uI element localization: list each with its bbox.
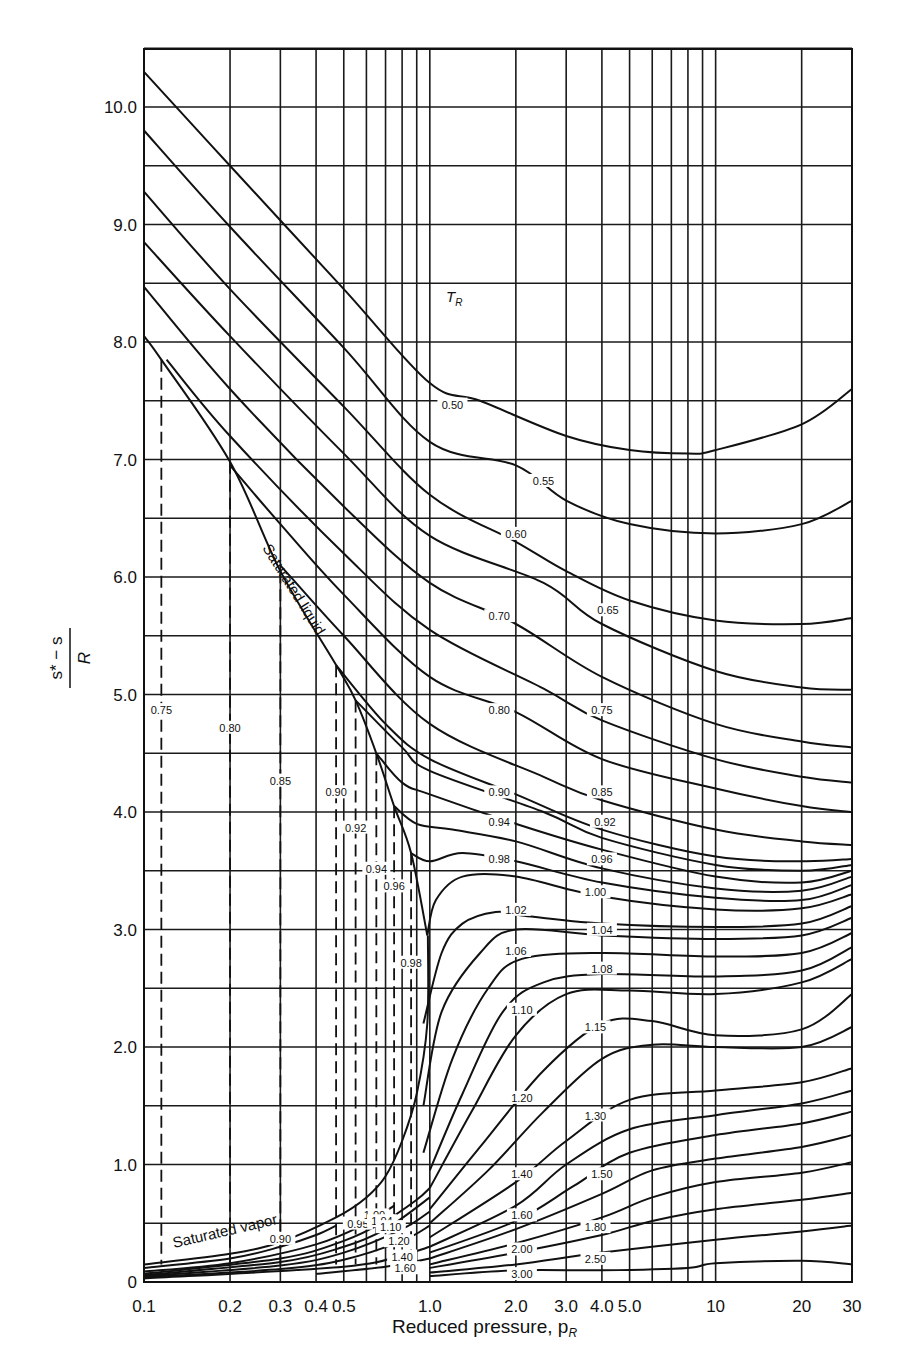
x-tick-label: 3.0 xyxy=(554,1297,578,1316)
curve-label-2.50: 2.50 xyxy=(585,1253,606,1265)
tr-curve-1.06 xyxy=(423,933,852,1153)
x-tick-label: 0.3 xyxy=(269,1297,293,1316)
curve-label-1.10: 1.10 xyxy=(380,1221,401,1233)
tr-curve-1.02 xyxy=(423,906,852,1024)
x-axis-label-text: Reduced pressure, p xyxy=(392,1316,568,1337)
x-tick-label: 10 xyxy=(706,1297,725,1316)
x-tick-label: 30 xyxy=(843,1297,862,1316)
saturated-vapor-label: Saturated vapor xyxy=(171,1210,279,1251)
curve-label-0.85: 0.85 xyxy=(591,786,612,798)
curve-label-0.70: 0.70 xyxy=(489,610,510,622)
tr-curve-0.55 xyxy=(144,131,852,534)
dashed-label-0.90: 0.90 xyxy=(325,786,346,798)
tr-curve-0.75 xyxy=(167,360,852,783)
dashed-label-0.80: 0.80 xyxy=(219,722,240,734)
x-tick-label: 0.2 xyxy=(218,1297,242,1316)
curve-label-1.40: 1.40 xyxy=(511,1168,532,1180)
grid-layer xyxy=(144,48,852,1282)
curve-label-1.60: 1.60 xyxy=(394,1262,415,1274)
x-tick-label: 0.5 xyxy=(332,1297,356,1316)
x-tick-label: 20 xyxy=(792,1297,811,1316)
curve-label-0.65: 0.65 xyxy=(597,604,618,616)
tr-curve-1.50 xyxy=(430,1112,852,1253)
y-tick-label: 1.0 xyxy=(113,1156,137,1175)
x-tick-label: 1.0 xyxy=(418,1297,442,1316)
curve-label-1.00: 1.00 xyxy=(585,886,606,898)
dashed-label-0.94: 0.94 xyxy=(366,863,387,875)
tr-curve-1.30 xyxy=(430,1068,852,1237)
curve-label-1.20: 1.20 xyxy=(511,1092,532,1104)
legend-title-tr: TR xyxy=(446,288,462,308)
dashed-label-0.92: 0.92 xyxy=(345,822,366,834)
curve-label-1.20: 1.20 xyxy=(388,1235,409,1247)
curve-label-1.15: 1.15 xyxy=(585,1021,606,1033)
dashed-label-0.75: 0.75 xyxy=(151,704,172,716)
x-tick-label: 4.0 xyxy=(590,1297,614,1316)
tick-labels: 0.10.20.30.40.51.02.03.04.05.010203001.0… xyxy=(104,98,862,1316)
y-tick-label: 4.0 xyxy=(113,803,137,822)
curve-label-1.40: 1.40 xyxy=(391,1251,412,1263)
legend-title-sub: R xyxy=(455,297,462,308)
y-tick-label: 9.0 xyxy=(113,216,137,235)
curve-label-2.00: 2.00 xyxy=(511,1243,532,1255)
y-tick-label: 5.0 xyxy=(113,686,137,705)
x-tick-label: 5.0 xyxy=(618,1297,642,1316)
x-tick-label: 0.4 xyxy=(304,1297,328,1316)
curve-label-1.04: 1.04 xyxy=(591,924,612,936)
x-tick-label: 2.0 xyxy=(504,1297,528,1316)
curve-label-0.90: 0.90 xyxy=(489,786,510,798)
entropy-departure-chart: 0.500.550.600.650.700.750.800.850.900.92… xyxy=(0,0,901,1372)
curve-label-1.80: 1.80 xyxy=(585,1221,606,1233)
curve-label-1.60: 1.60 xyxy=(511,1209,532,1221)
saturated-liquid-label: Saturated liquid xyxy=(259,541,329,638)
tr-curve-0.50 xyxy=(144,72,852,454)
curve-label-3.00: 3.00 xyxy=(511,1268,532,1280)
curve-label-1.02: 1.02 xyxy=(505,904,526,916)
curve-label-0.60: 0.60 xyxy=(505,528,526,540)
y-tick-label: 2.0 xyxy=(113,1038,137,1057)
dashed-label-0.85: 0.85 xyxy=(270,775,291,787)
dashed-label-0.98: 0.98 xyxy=(400,957,421,969)
curve-label-0.55: 0.55 xyxy=(533,475,554,487)
curve-label-1.30: 1.30 xyxy=(585,1110,606,1122)
curve-label-1.10: 1.10 xyxy=(511,1004,532,1016)
y-tick-label: 6.0 xyxy=(113,568,137,587)
tr-curve-0.96 xyxy=(394,806,852,892)
tr-curve-1.10 xyxy=(430,959,852,1188)
tr-curve-1.04 xyxy=(423,918,852,1106)
y-tick-label: 3.0 xyxy=(113,921,137,940)
tr-curve-3.00 xyxy=(430,1261,852,1276)
x-tick-label: 0.1 xyxy=(132,1297,156,1316)
dashed-label-0.96: 0.96 xyxy=(383,880,404,892)
curve-label-0.96: 0.96 xyxy=(591,853,612,865)
curve-label-0.98: 0.98 xyxy=(489,853,510,865)
tr-curves xyxy=(144,72,852,1279)
x-axis-label: Reduced pressure, pR xyxy=(392,1316,577,1340)
curve-label-0.94: 0.94 xyxy=(489,816,510,828)
curve-label-0.50: 0.50 xyxy=(442,399,463,411)
curve-label-0.92: 0.92 xyxy=(594,816,615,828)
tr-curve-1.80 xyxy=(430,1162,852,1264)
y-tick-label: 7.0 xyxy=(113,451,137,470)
curve-label-0.75: 0.75 xyxy=(591,704,612,716)
curve-label-1.08: 1.08 xyxy=(591,963,612,975)
y-axis-label-numerator: s* − s xyxy=(47,637,66,680)
curve-label-1.06: 1.06 xyxy=(505,945,526,957)
y-tick-label: 8.0 xyxy=(113,333,137,352)
curve-label-1.50: 1.50 xyxy=(591,1168,612,1180)
y-tick-label: 0 xyxy=(128,1273,137,1292)
x-axis-label-sub: R xyxy=(568,1326,577,1340)
y-tick-label: 10.0 xyxy=(104,98,137,117)
y-axis-label-denominator: R xyxy=(75,652,94,664)
curve-label-0.90: 0.90 xyxy=(270,1233,291,1245)
curve-label-0.80: 0.80 xyxy=(489,704,510,716)
y-axis-label: s* − s R xyxy=(47,628,94,688)
